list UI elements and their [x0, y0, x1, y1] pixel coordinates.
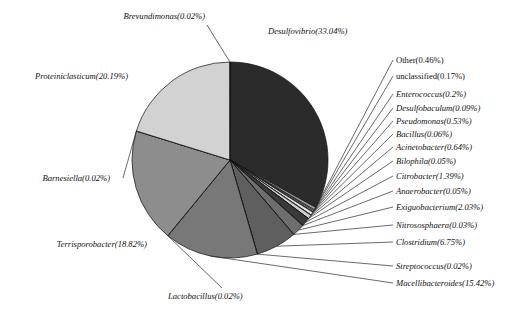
- pie-chart-figure: Brevundimonas(0.02%) Desulfovibrio(33.04…: [0, 0, 520, 315]
- pie-label-desulfobaculum: Desulfobaculum(0.09%): [396, 104, 480, 113]
- pie-label-other: Other(0.46%): [396, 56, 444, 65]
- pie-label-nitrososphaera-text: Nitrososphaera(0.03%): [396, 220, 477, 230]
- leader-line-streptococcus: [257, 254, 393, 266]
- pie-label-lactobacillus: Lactobacillus(0.02%): [168, 292, 243, 301]
- leader-line-macellibacteroides: [210, 256, 393, 283]
- pie-label-barnesiella-text: Barnesiella(0.02%): [42, 173, 110, 183]
- pie-label-citrobacter-text: Citrobacter(1.39%): [396, 171, 464, 181]
- pie-label-bilophila: Bilophila(0.05%): [396, 157, 456, 166]
- pie-label-anaerobacter-text: Anaerobacter(0.05%): [396, 186, 471, 196]
- pie-label-barnesiella: Barnesiella(0.02%): [0, 174, 110, 183]
- pie-label-brevundimonas: Brevundimonas(0.02%): [5, 12, 205, 21]
- pie-label-citrobacter: Citrobacter(1.39%): [396, 172, 464, 181]
- pie-label-macellibacteroides: Macellibacteroides(15.42%): [396, 279, 494, 288]
- pie-label-desulfovibrio-text: Desulfovibrio(33.04%): [268, 26, 347, 36]
- pie-label-bacillus-text: Bacillus(0.06%): [396, 129, 452, 139]
- pie-label-bilophila-text: Bilophila(0.05%): [396, 156, 456, 166]
- pie-label-desulfovibrio: Desulfovibrio(33.04%): [268, 27, 347, 36]
- pie-label-proteiniclasticum: Proteiniclasticum(20.19%): [0, 72, 128, 81]
- pie-label-exiguobacterium-text: Exiguobacterium(2.03%): [396, 202, 483, 212]
- pie-label-acinetobacter: Acinetobacter(0.64%): [396, 143, 472, 152]
- leader-line-nitrososphaera: [294, 225, 393, 234]
- pie-label-desulfobaculum-text: Desulfobaculum(0.09%): [396, 103, 480, 113]
- pie-label-pseudomonas-text: Pseudomonas(0.53%): [396, 116, 472, 126]
- pie-label-proteiniclasticum-text: Proteiniclasticum(20.19%): [35, 71, 128, 81]
- pie-slices-group: [132, 62, 328, 258]
- pie-label-terrisporobacter-text: Terrisporobacter(18.82%): [57, 239, 147, 249]
- pie-label-macellibacteroides-text: Macellibacteroides(15.42%): [396, 278, 494, 288]
- pie-label-acinetobacter-text: Acinetobacter(0.64%): [396, 142, 472, 152]
- pie-label-streptococcus-text: Streptococcus(0.02%): [396, 261, 472, 271]
- pie-label-pseudomonas: Pseudomonas(0.53%): [396, 117, 472, 126]
- pie-label-enterococcus-text: Enterococcus(0.2%): [396, 89, 466, 99]
- pie-label-unclassified: unclassified(0.17%): [396, 72, 465, 81]
- pie-label-clostridium: Clostridium(6.75%): [396, 238, 465, 247]
- leader-line-brevundimonas: [207, 25, 230, 62]
- leader-line-clostridium: [277, 242, 393, 246]
- pie-label-streptococcus: Streptococcus(0.02%): [396, 262, 472, 271]
- pie-label-clostridium-text: Clostridium(6.75%): [396, 237, 465, 247]
- pie-label-terrisporobacter: Terrisporobacter(18.82%): [0, 240, 147, 249]
- pie-label-anaerobacter: Anaerobacter(0.05%): [396, 187, 471, 196]
- pie-label-nitrososphaera: Nitrososphaera(0.03%): [396, 221, 477, 230]
- pie-label-exiguobacterium: Exiguobacterium(2.03%): [396, 203, 483, 212]
- pie-label-enterococcus: Enterococcus(0.2%): [396, 90, 466, 99]
- pie-label-brevundimonas-text: Brevundimonas(0.02%): [123, 11, 205, 21]
- pie-label-other-text: Other(0.46%): [396, 55, 444, 65]
- pie-label-unclassified-text: unclassified(0.17%): [396, 71, 465, 81]
- pie-label-lactobacillus-text: Lactobacillus(0.02%): [168, 291, 243, 301]
- pie-label-bacillus: Bacillus(0.06%): [396, 130, 452, 139]
